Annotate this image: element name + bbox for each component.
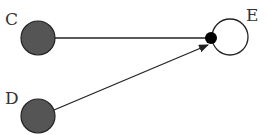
edge-d-to-e-arrow <box>54 45 208 110</box>
junction-dot <box>205 32 217 44</box>
diagram-canvas: C D E <box>0 0 268 135</box>
node-e-label: E <box>246 5 258 25</box>
node-d-label: D <box>5 88 19 108</box>
node-c <box>21 21 55 55</box>
node-c-label: C <box>5 9 18 29</box>
node-e <box>212 19 248 55</box>
node-d <box>21 99 55 133</box>
